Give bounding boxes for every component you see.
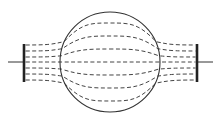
field-diagram [0,0,220,123]
field-line [26,80,196,101]
field-lines [26,23,196,101]
field-line [26,74,196,88]
field-line [26,23,196,45]
field-line [26,68,196,75]
